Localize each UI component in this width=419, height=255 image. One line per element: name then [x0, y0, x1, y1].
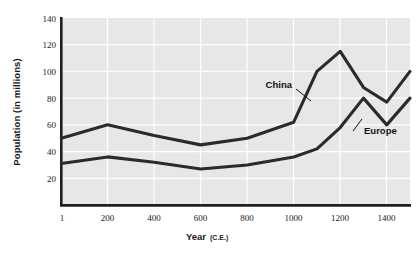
x-axis-title-sub: (C.E.)	[210, 234, 228, 242]
x-tick-1200: 1200	[331, 213, 350, 223]
chart-svg: 140 120 100 80 60 40 20 1 200 400 600 80…	[0, 0, 419, 255]
x-tick-1000: 1000	[285, 213, 304, 223]
x-tick-1400: 1400	[378, 213, 397, 223]
y-tick-20: 20	[47, 174, 57, 184]
y-tick-140: 140	[43, 14, 57, 24]
y-tick-120: 120	[43, 40, 57, 50]
y-tick-60: 60	[47, 120, 57, 130]
population-line-chart: 140 120 100 80 60 40 20 1 200 400 600 80…	[0, 0, 419, 255]
y-tick-40: 40	[47, 147, 57, 157]
europe-annotation-label: Europe	[364, 125, 397, 136]
china-annotation-label: China	[266, 79, 293, 90]
y-tick-80: 80	[47, 94, 57, 104]
y-tick-100: 100	[43, 67, 57, 77]
plot-area-background	[61, 18, 410, 205]
x-axis-title-main: Year	[186, 231, 206, 242]
x-tick-200: 200	[101, 213, 115, 223]
x-tick-400: 400	[147, 213, 161, 223]
x-tick-600: 600	[194, 213, 208, 223]
x-tick-1: 1	[60, 213, 65, 223]
y-axis-title: Population (in millions)	[11, 58, 22, 165]
x-tick-800: 800	[240, 213, 254, 223]
